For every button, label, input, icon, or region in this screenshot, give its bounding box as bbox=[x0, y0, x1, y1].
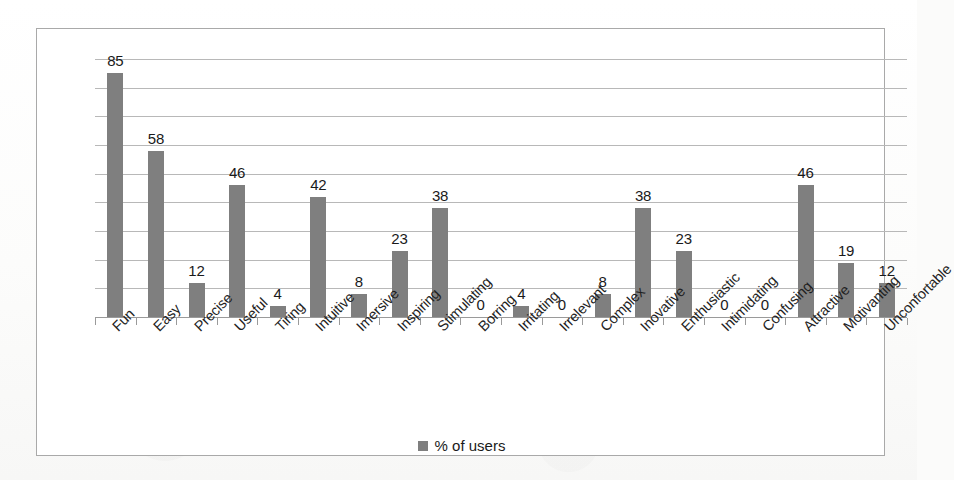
bar-value-label: 8 bbox=[336, 273, 382, 290]
gridline bbox=[95, 231, 907, 232]
bar bbox=[310, 197, 326, 317]
bar-value-label: 23 bbox=[377, 230, 423, 247]
bar-value-label: 42 bbox=[295, 176, 341, 193]
bar-value-label: 38 bbox=[417, 187, 463, 204]
x-axis-tick bbox=[745, 318, 746, 325]
bar bbox=[392, 251, 408, 317]
x-axis-tick bbox=[339, 318, 340, 325]
bar-value-label: 46 bbox=[214, 164, 260, 181]
x-axis-tick bbox=[95, 318, 96, 325]
x-axis-tick bbox=[542, 318, 543, 325]
gridline bbox=[95, 88, 907, 89]
bar-value-label: 19 bbox=[823, 242, 869, 259]
gridline bbox=[95, 116, 907, 117]
chart-frame: 85581246442823380408382300461912 FunEasy… bbox=[36, 28, 885, 456]
bar-value-label: 58 bbox=[133, 130, 179, 147]
gridline bbox=[95, 202, 907, 203]
x-axis-tick bbox=[136, 318, 137, 325]
bar-value-label: 38 bbox=[620, 187, 666, 204]
gridline bbox=[95, 59, 907, 60]
bar-value-label: 85 bbox=[92, 52, 138, 69]
chart-legend: % of users bbox=[37, 437, 886, 454]
bar-value-label: 46 bbox=[783, 164, 829, 181]
gridline bbox=[95, 260, 907, 261]
bar bbox=[148, 151, 164, 317]
bar-value-label: 12 bbox=[174, 262, 220, 279]
legend-label-percent-of-users: % of users bbox=[435, 437, 506, 454]
bar-value-label: 23 bbox=[661, 230, 707, 247]
legend-swatch-percent-of-users bbox=[418, 441, 428, 451]
bar bbox=[107, 73, 123, 317]
gridline bbox=[95, 145, 907, 146]
